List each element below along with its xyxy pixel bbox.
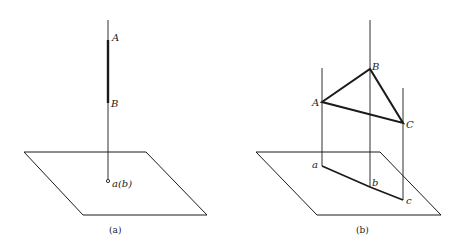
triangle-ABC [322, 69, 403, 123]
projection-plane-b [256, 152, 441, 215]
projection-abc [322, 166, 403, 200]
label-a: a [312, 159, 318, 170]
panel-b: A B C a b c (b) [256, 20, 441, 235]
label-c: c [406, 195, 412, 206]
panel-a: A B a(b) (a) [24, 20, 207, 235]
label-B: B [371, 61, 379, 72]
label-b: b [372, 177, 378, 188]
label-C: C [406, 119, 414, 130]
projection-point-ab [106, 179, 109, 182]
label-a-b: a(b) [112, 178, 132, 189]
label-B: B [110, 98, 118, 109]
caption-b: (b) [356, 225, 369, 235]
label-A: A [111, 32, 119, 43]
label-A: A [311, 97, 319, 108]
projection-diagram: A B a(b) (a) A B C a b c (b) [0, 0, 456, 246]
caption-a: (a) [109, 225, 121, 235]
